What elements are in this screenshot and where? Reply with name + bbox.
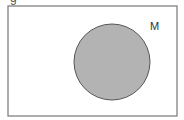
venn-diagram: M — [0, 0, 184, 120]
set-m-label: M — [150, 20, 159, 32]
set-m-circle — [74, 24, 150, 100]
